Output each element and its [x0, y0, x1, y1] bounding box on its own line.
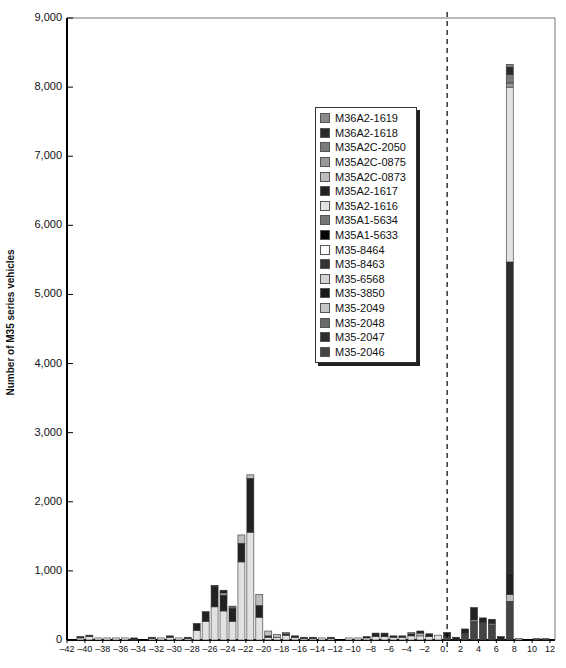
- legend-label: M35-8463: [335, 258, 385, 270]
- y-tick-label: 0: [2, 633, 62, 645]
- bar-segment: [533, 639, 540, 640]
- y-tick-label: 1,000: [2, 564, 62, 576]
- bar-segment: [238, 543, 245, 562]
- legend-swatch: [320, 186, 330, 196]
- bar-segment: [256, 617, 263, 640]
- bar-segment: [220, 593, 227, 595]
- bar-segment: [363, 638, 370, 640]
- legend-label: M35-2046: [335, 346, 385, 358]
- legend-label: M36A2-1619: [335, 112, 398, 124]
- bar-segment: [506, 594, 513, 601]
- bar-segment: [345, 638, 352, 640]
- bar-segment: [506, 67, 513, 75]
- legend-label: M36A2-1618: [335, 127, 398, 139]
- bar-segment: [283, 635, 290, 640]
- legend-item: M35A1-5634: [320, 213, 412, 228]
- bar-segment: [470, 608, 477, 620]
- y-tick-label: 6,000: [2, 218, 62, 230]
- bar-segment: [354, 638, 361, 640]
- legend-swatch: [320, 113, 330, 123]
- bar-segment: [247, 475, 254, 478]
- bar-segment: [211, 586, 218, 607]
- bar-segment: [426, 634, 433, 637]
- legend-swatch: [320, 201, 330, 211]
- legend-item: M36A2-1619: [320, 111, 412, 126]
- legend-swatch: [320, 274, 330, 284]
- bar-segment: [256, 605, 263, 617]
- bar-segment: [408, 634, 415, 636]
- bar-segment: [175, 638, 182, 640]
- bar-segment: [166, 637, 173, 640]
- bar-segment: [157, 638, 164, 640]
- bar-segment: [220, 590, 227, 593]
- bar-segment: [238, 562, 245, 640]
- bar-segment: [122, 638, 129, 640]
- bar-segment: [435, 635, 442, 640]
- bar-segment: [113, 638, 120, 640]
- legend-item: M35A1-5633: [320, 228, 412, 243]
- bar-segment: [166, 636, 173, 637]
- bar-segment: [417, 631, 424, 633]
- legend-swatch: [320, 172, 330, 182]
- bar-segment: [381, 637, 388, 640]
- bar-segment: [77, 637, 84, 638]
- y-tick-label: 4,000: [2, 357, 62, 369]
- bar-segment: [274, 637, 281, 640]
- legend-item: M35A2-1616: [320, 199, 412, 214]
- legend-item: M35-6568: [320, 272, 412, 287]
- legend-swatch: [320, 230, 330, 240]
- y-tick-label: 5,000: [2, 287, 62, 299]
- legend-label: M35A2C-2050: [335, 141, 406, 153]
- bar-segment: [283, 632, 290, 633]
- legend: M36A2-1619M36A2-1618M35A2C-2050M35A2C-08…: [315, 107, 417, 363]
- bar-segment: [381, 633, 388, 636]
- legend-swatch: [320, 288, 330, 298]
- legend-label: M35A1-5633: [335, 229, 398, 241]
- bar-segment: [301, 637, 308, 638]
- bar-segment: [86, 635, 93, 636]
- bar-segment: [256, 594, 263, 605]
- y-tick-label: 3,000: [2, 426, 62, 438]
- legend-item: M35-3850: [320, 286, 412, 301]
- bar-segment: [193, 623, 200, 630]
- bar-segment: [506, 87, 513, 262]
- legend-item: M35-2047: [320, 330, 412, 345]
- bar-segment: [193, 630, 200, 640]
- legend-swatch: [320, 142, 330, 152]
- bar-segment: [399, 637, 406, 640]
- legend-swatch: [320, 245, 330, 255]
- bar-segment: [229, 606, 236, 608]
- bar-segment: [372, 633, 379, 636]
- plot-area: [0, 0, 566, 668]
- legend-label: M35-3850: [335, 287, 385, 299]
- bar-segment: [506, 574, 513, 595]
- bar-segment: [417, 636, 424, 640]
- legend-item: M35A2-1617: [320, 184, 412, 199]
- y-axis-title: Number of M35 series vehicles: [5, 256, 16, 396]
- x-tick-label: 12: [540, 644, 560, 654]
- bar-segment: [211, 585, 218, 586]
- legend-item: M35-8463: [320, 257, 412, 272]
- legend-item: M35A2C-2050: [320, 140, 412, 155]
- bar-segment: [327, 637, 334, 638]
- bar-segment: [318, 638, 325, 640]
- bar-segment: [399, 636, 406, 637]
- bar-segment: [372, 637, 379, 640]
- bar-segment: [86, 637, 93, 640]
- bar-segment: [202, 612, 209, 622]
- bar-segment: [211, 607, 218, 640]
- legend-item: M35-2048: [320, 315, 412, 330]
- bar-segment: [488, 619, 495, 623]
- bar-segment: [229, 608, 236, 621]
- bar-segment: [95, 638, 102, 640]
- bar-segment: [292, 636, 299, 637]
- bar-segment: [104, 638, 111, 640]
- bar-segment: [506, 75, 513, 83]
- legend-swatch: [320, 332, 330, 342]
- legend-swatch: [320, 303, 330, 313]
- bar-segment: [148, 637, 155, 638]
- y-tick-label: 7,000: [2, 149, 62, 161]
- bar-segment: [453, 637, 460, 640]
- stacked-bar-chart: Number of M35 series vehicles 01,0002,00…: [0, 0, 566, 668]
- y-tick-label: 2,000: [2, 495, 62, 507]
